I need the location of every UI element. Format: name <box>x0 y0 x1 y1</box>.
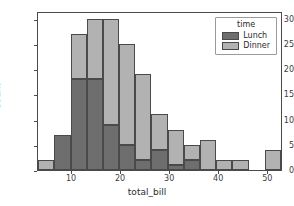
histogram-bar <box>232 160 248 170</box>
bar-segment-lunch <box>87 79 103 170</box>
bar-segment-dinner <box>200 140 216 170</box>
bar-segment-lunch <box>54 135 70 170</box>
histogram-bar <box>119 44 135 170</box>
histogram-figure: Count 051015202530 time LunchDinner 1020… <box>0 0 294 206</box>
bar-segment-dinner <box>38 160 54 170</box>
bar-segment-lunch <box>103 125 119 170</box>
histogram-bar <box>151 114 167 170</box>
x-axis-label: total_bill <box>0 188 294 197</box>
bar-segment-dinner <box>168 130 184 165</box>
legend-swatch-icon <box>222 42 239 50</box>
legend-entries: LunchDinner <box>222 32 270 51</box>
bar-segment-dinner <box>216 160 232 170</box>
bar-segment-lunch <box>184 160 200 170</box>
y-tick-mark <box>34 171 37 172</box>
x-tick-label: 40 <box>213 175 223 183</box>
x-tick-label: 30 <box>164 175 174 183</box>
bar-segment-dinner <box>184 145 200 160</box>
bar-segment-lunch <box>71 79 87 170</box>
bar-segment-dinner <box>135 74 151 160</box>
x-tick-mark <box>267 171 268 174</box>
x-tick-label: 20 <box>115 175 125 183</box>
histogram-bar <box>103 19 119 170</box>
legend-label: Dinner <box>243 42 270 51</box>
histogram-bar <box>38 160 54 170</box>
x-tick-label: 50 <box>262 175 272 183</box>
bar-segment-dinner <box>103 19 119 125</box>
histogram-bar <box>87 19 103 170</box>
plot-area: time LunchDinner <box>37 12 282 171</box>
histogram-bar <box>71 34 87 170</box>
histogram-bar <box>265 150 281 170</box>
x-tick-mark <box>169 171 170 174</box>
legend-item: Dinner <box>222 42 270 51</box>
bar-segment-dinner <box>265 150 281 170</box>
histogram-bar <box>135 74 151 170</box>
x-tick-mark <box>120 171 121 174</box>
legend-label: Lunch <box>243 32 267 41</box>
legend-swatch-icon <box>222 32 239 40</box>
histogram-bar <box>184 145 200 170</box>
bar-segment-dinner <box>151 114 167 149</box>
bar-segment-dinner <box>232 160 248 170</box>
bar-segment-dinner <box>119 44 135 145</box>
histogram-bar <box>200 140 216 170</box>
bar-segment-lunch <box>168 165 184 170</box>
histogram-bar <box>168 130 184 170</box>
histogram-bar <box>54 135 70 170</box>
bar-segment-dinner <box>71 34 87 79</box>
x-tick-mark <box>71 171 72 174</box>
legend-item: Lunch <box>222 32 270 41</box>
legend-title: time <box>222 21 270 30</box>
x-tick-mark <box>218 171 219 174</box>
x-tick-label: 10 <box>66 175 76 183</box>
y-axis-label: Count <box>0 83 2 110</box>
legend: time LunchDinner <box>215 17 277 55</box>
bar-segment-lunch <box>119 145 135 170</box>
bar-segment-dinner <box>87 19 103 80</box>
bar-segment-lunch <box>151 150 167 170</box>
bar-segment-lunch <box>135 160 151 170</box>
histogram-bar <box>216 160 232 170</box>
